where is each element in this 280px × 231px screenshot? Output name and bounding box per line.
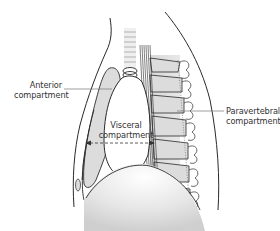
- trachea: [123, 28, 137, 79]
- anterior-label-line2: compartment: [14, 90, 62, 100]
- anterior-compartment-label: Anterior compartment: [14, 80, 62, 100]
- paravertebral-compartment-label: Paravertebral compartment: [226, 106, 280, 126]
- visceral-compartment-label: Visceral compartment: [96, 120, 156, 140]
- anterior-label-line1: Anterior: [14, 80, 62, 90]
- visceral-label-line1: Visceral: [96, 120, 156, 130]
- visceral-label-line2: compartment: [96, 130, 156, 140]
- paravertebral-label-line1: Paravertebral: [226, 106, 280, 116]
- paravertebral-label-line2: compartment: [226, 116, 280, 126]
